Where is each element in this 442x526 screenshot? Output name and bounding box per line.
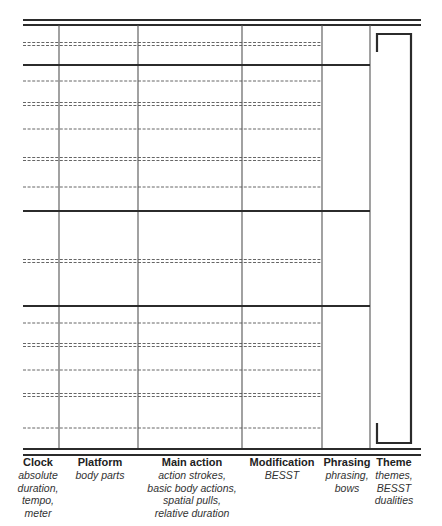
legend-title: Phrasing xyxy=(323,456,370,469)
legend-line: bows xyxy=(323,482,370,495)
legend-modification: Modification BESST xyxy=(250,456,315,482)
legend-line: relative duration xyxy=(147,507,236,520)
legend-line: body parts xyxy=(75,469,124,482)
legend-line: themes, xyxy=(375,469,414,482)
legend-line: BESST xyxy=(250,469,315,482)
column-dividers xyxy=(59,25,370,448)
legend-platform: Platform body parts xyxy=(75,456,124,482)
legend-title: Theme xyxy=(375,456,414,469)
legend-description: action strokes, basic body actions, spat… xyxy=(147,469,236,519)
legend-title: Clock xyxy=(18,456,59,469)
legend-line: spatial pulls, xyxy=(147,494,236,507)
legend-line: tempo, xyxy=(18,494,59,507)
legend-theme: Theme themes, BESST dualities xyxy=(375,456,414,507)
legend-description: themes, BESST dualities xyxy=(375,469,414,507)
legend-description: absolute duration, tempo, meter xyxy=(18,469,59,519)
legend-line: dualities xyxy=(375,494,414,507)
legend-line: basic body actions, xyxy=(147,482,236,495)
score-grid xyxy=(0,0,442,526)
legend-title: Main action xyxy=(147,456,236,469)
dashed-guide-lines xyxy=(23,43,322,429)
legend-line: BESST xyxy=(375,482,414,495)
legend-title: Modification xyxy=(250,456,315,469)
legend-description: body parts xyxy=(75,469,124,482)
legend-line: phrasing, xyxy=(323,469,370,482)
legend-main-action: Main action action strokes, basic body a… xyxy=(147,456,236,519)
top-double-rule xyxy=(23,20,421,25)
legend-clock: Clock absolute duration, tempo, meter xyxy=(18,456,59,519)
section-dividers xyxy=(23,65,370,306)
legend-description: BESST xyxy=(250,469,315,482)
legend-title: Platform xyxy=(75,456,124,469)
legend-line: meter xyxy=(18,507,59,520)
legend-line: action strokes, xyxy=(147,469,236,482)
legend-line: duration, xyxy=(18,482,59,495)
legend-description: phrasing, bows xyxy=(323,469,370,494)
legend-phrasing: Phrasing phrasing, bows xyxy=(323,456,370,494)
legend-line: absolute xyxy=(18,469,59,482)
theme-bracket-path xyxy=(377,34,411,443)
theme-bracket xyxy=(377,34,411,443)
bottom-double-rule xyxy=(23,449,421,455)
